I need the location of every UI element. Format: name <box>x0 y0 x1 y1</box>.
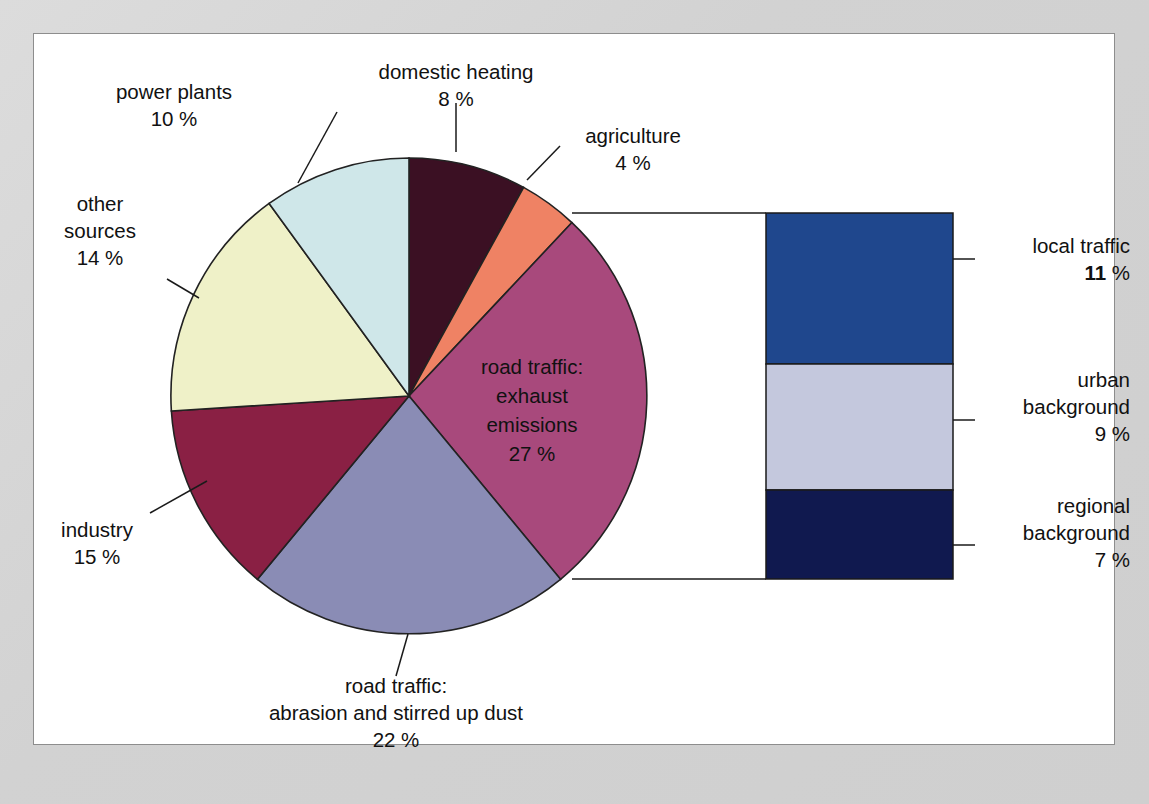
pie-label-other-sources: other sources 14 % <box>30 190 170 271</box>
bar-label-regional-background-line2: background <box>760 519 1130 546</box>
pie-label-road-traffic-abrasion-value: 22 % <box>166 726 626 753</box>
pie-label-other-sources-line1: other <box>30 190 170 217</box>
pie-label-domestic-heating: domestic heating 8 % <box>346 58 566 112</box>
pie-label-industry-text: industry <box>22 516 172 543</box>
pie-label-road-traffic-exhaust-line2: exhaust <box>432 381 632 410</box>
pie-label-road-traffic-exhaust: road traffic: exhaust emissions 27 % <box>432 352 632 468</box>
pie-label-road-traffic-abrasion-line1: road traffic: <box>166 672 626 699</box>
pie-label-power-plants: power plants 10 % <box>64 78 284 132</box>
pie-label-domestic-heating-value: 8 % <box>346 85 566 112</box>
pie-label-other-sources-line2: sources <box>30 217 170 244</box>
bar-label-regional-background-value: 7 % <box>760 546 1130 573</box>
pie-label-road-traffic-exhaust-line3: emissions <box>432 410 632 439</box>
bar-label-local-traffic-number: 11 <box>1084 261 1106 284</box>
pie-label-agriculture-value: 4 % <box>553 149 713 176</box>
pie-label-road-traffic-abrasion: road traffic: abrasion and stirred up du… <box>166 672 626 753</box>
pie-label-domestic-heating-text: domestic heating <box>346 58 566 85</box>
figure-background: power plants 10 % domestic heating 8 % a… <box>0 0 1149 804</box>
bar-label-urban-background-line2: background <box>760 393 1130 420</box>
bar-label-urban-background-line1: urban <box>760 366 1130 393</box>
bar-label-regional-background: regional background 7 % <box>760 492 1130 573</box>
pie-label-agriculture: agriculture 4 % <box>553 122 713 176</box>
pie-label-other-sources-value: 14 % <box>30 244 170 271</box>
pie-label-industry: industry 15 % <box>22 516 172 570</box>
pie-label-road-traffic-abrasion-line2: abrasion and stirred up dust <box>166 699 626 726</box>
pie-label-road-traffic-exhaust-value: 27 % <box>432 439 632 468</box>
bar-label-local-traffic-text: local traffic <box>760 232 1130 259</box>
pie-label-agriculture-text: agriculture <box>553 122 713 149</box>
bar-label-regional-background-line1: regional <box>760 492 1130 519</box>
pie-label-road-traffic-exhaust-line1: road traffic: <box>432 352 632 381</box>
bar-label-local-traffic-value: 11 % <box>760 259 1130 286</box>
bar-label-local-traffic: local traffic 11 % <box>760 232 1130 286</box>
pie-label-industry-value: 15 % <box>22 543 172 570</box>
bar-label-local-traffic-unit: % <box>1112 261 1130 284</box>
bar-label-urban-background: urban background 9 % <box>760 366 1130 447</box>
pie-label-power-plants-text: power plants <box>64 78 284 105</box>
pie-label-power-plants-value: 10 % <box>64 105 284 132</box>
bar-label-urban-background-value: 9 % <box>760 420 1130 447</box>
